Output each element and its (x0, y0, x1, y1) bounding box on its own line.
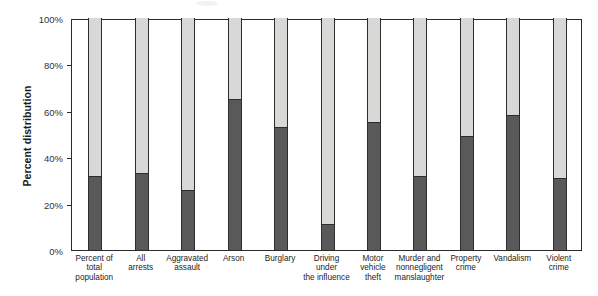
y-axis-ticks: 0%20%40%60%80%100% (0, 0, 71, 296)
stacked-bar (321, 18, 335, 250)
stacked-bar (553, 18, 567, 250)
x-axis-category-label: Violent crime (531, 254, 587, 273)
bar-lower-segment (89, 176, 101, 250)
bar-lower-segment (554, 178, 566, 250)
plot-area (71, 19, 582, 251)
y-axis-tick-label: 60% (44, 106, 63, 117)
stacked-bar (135, 18, 149, 250)
stacked-bar (88, 18, 102, 250)
bar-lower-segment (275, 127, 287, 250)
x-axis-category-labels: Percent of total populationAll arrestsAg… (71, 254, 582, 296)
bar-lower-segment (507, 115, 519, 250)
stacked-bar (181, 18, 195, 250)
y-axis-tick-label: 20% (44, 199, 63, 210)
y-axis-tick-label: 100% (39, 14, 63, 25)
y-axis-tick-label: 0% (49, 246, 63, 257)
bar-lower-segment (136, 173, 148, 250)
bar-lower-segment (368, 122, 380, 250)
scan-artifact (196, 1, 218, 6)
bar-lower-segment (414, 176, 426, 250)
stacked-bar (228, 18, 242, 250)
stacked-bar (460, 18, 474, 250)
bar-lower-segment (322, 224, 334, 250)
bar-lower-segment (461, 136, 473, 250)
bar-lower-segment (229, 99, 241, 250)
stacked-bar (413, 18, 427, 250)
y-axis-tick-label: 40% (44, 153, 63, 164)
percent-distribution-bar-chart: Percent distribution 0%20%40%60%80%100% … (0, 0, 598, 296)
stacked-bar (367, 18, 381, 250)
stacked-bar (506, 18, 520, 250)
y-axis-tick-label: 80% (44, 60, 63, 71)
stacked-bar (274, 18, 288, 250)
bar-lower-segment (182, 190, 194, 250)
